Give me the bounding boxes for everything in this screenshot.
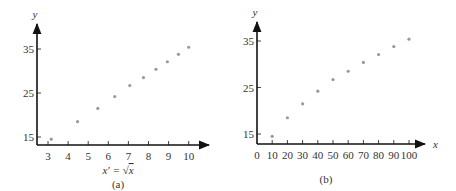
x-tick-label: 50 (328, 149, 340, 161)
data-point (113, 95, 116, 98)
x-tick-label: 60 (343, 149, 355, 161)
data-point (316, 90, 319, 93)
y-tick-label: 25 (23, 87, 35, 99)
data-point (331, 78, 334, 81)
data-point (128, 84, 131, 87)
data-point (362, 61, 365, 64)
data-point (392, 45, 395, 48)
data-point (271, 135, 274, 138)
data-point (50, 138, 53, 141)
x-tick-label: 100 (401, 149, 418, 161)
data-point (286, 116, 289, 119)
data-point (166, 60, 169, 63)
x-tick-label: 6 (106, 150, 112, 162)
x-tick-label: 4 (65, 150, 71, 162)
x-tick-label: 80 (373, 149, 385, 161)
x-tick-label: 8 (146, 150, 152, 162)
data-point (142, 76, 145, 79)
x-tick-label: 3 (45, 150, 51, 162)
y-tick-label: 15 (23, 131, 35, 143)
x-tick-label: 20 (282, 149, 294, 161)
panel-caption: (a) (112, 178, 125, 191)
x-tick-label: 10 (183, 150, 195, 162)
x-tick-label: 0 (254, 149, 260, 161)
y-tick-label: 35 (23, 43, 35, 55)
data-point (154, 68, 157, 71)
panel-b-scatter: 0102030405060708090100152535yx(b) (243, 6, 438, 186)
y-axis-label: y (32, 8, 38, 20)
x-tick-label: 70 (358, 149, 370, 161)
x-axis-label: x′ = √x (101, 164, 133, 176)
x-tick-label: 40 (312, 149, 324, 161)
data-point (177, 53, 180, 56)
panel-caption: (b) (320, 173, 333, 186)
x-tick-label: 30 (297, 149, 309, 161)
y-tick-label: 15 (243, 128, 255, 140)
data-point (407, 38, 410, 41)
data-point (96, 107, 99, 110)
data-point (377, 53, 380, 56)
x-tick-label: 7 (126, 150, 132, 162)
x-tick-label: 10 (267, 149, 279, 161)
data-point (347, 70, 350, 73)
y-tick-label: 25 (243, 82, 255, 94)
x-tick-label: 5 (85, 150, 91, 162)
y-tick-label: 35 (243, 35, 255, 47)
x-tick-label: 90 (388, 149, 400, 161)
x-axis-label: x (432, 138, 438, 150)
figure: 345678910152535yx′ = √x(a) 0102030405060… (0, 0, 456, 191)
data-point (76, 120, 79, 123)
panel-a-scatter: 345678910152535yx′ = √x(a) (23, 8, 209, 191)
data-point (301, 102, 304, 105)
y-axis-label: y (252, 6, 258, 18)
x-tick-label: 9 (166, 150, 172, 162)
data-point (187, 46, 190, 49)
